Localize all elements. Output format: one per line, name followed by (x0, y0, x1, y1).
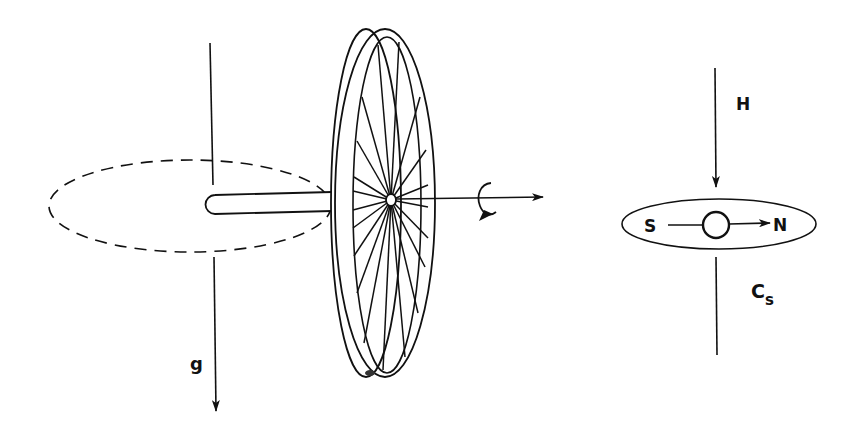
field-arrow (715, 68, 716, 187)
field-label: H (736, 94, 750, 114)
valve-nub (365, 370, 375, 376)
rotation-arrow-icon (478, 183, 496, 214)
compass-pivot (703, 212, 729, 238)
spin-axis-arrow (396, 197, 543, 199)
system-label: Cs (751, 280, 774, 309)
wheel (331, 29, 435, 377)
north-pole-label: N (773, 215, 787, 235)
axle (206, 192, 333, 214)
needle-north-arrow (729, 223, 770, 224)
axis-lower (716, 257, 717, 355)
gravity-label: g (190, 353, 203, 374)
diagram-canvas: g (0, 0, 858, 438)
vertical-axis-upper (210, 43, 213, 185)
rotation-arrowhead-icon (479, 210, 493, 221)
wheel-hub (386, 194, 396, 206)
gravity-arrow (214, 257, 216, 411)
south-pole-label: S (644, 216, 656, 236)
